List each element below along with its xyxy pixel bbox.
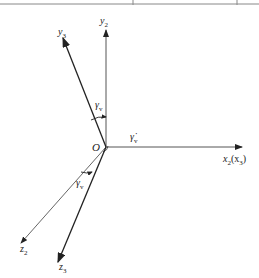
label-gamma-upper: γv: [95, 99, 103, 113]
z2-axis: [21, 147, 106, 243]
angle-arc-upper: [91, 117, 106, 120]
label-z3: z3: [58, 261, 67, 275]
angle-arc-lower: [81, 172, 92, 173]
label-z2: z2: [19, 243, 28, 257]
label-gamma-lower: γv: [76, 177, 84, 191]
label-x2x3: x2(x3): [222, 153, 246, 167]
label-y3: y3: [57, 26, 66, 40]
label-gamma-dot: γ̇v: [130, 131, 138, 145]
y3-axis: [63, 38, 106, 147]
label-y2: y2: [99, 15, 108, 29]
coordinate-diagram: y2 y3 x2(x3) z2 z3 O γv γv γ̇v: [0, 0, 259, 278]
top-border: [0, 0, 259, 5]
z3-axis: [58, 147, 106, 262]
label-origin: O: [92, 141, 100, 153]
